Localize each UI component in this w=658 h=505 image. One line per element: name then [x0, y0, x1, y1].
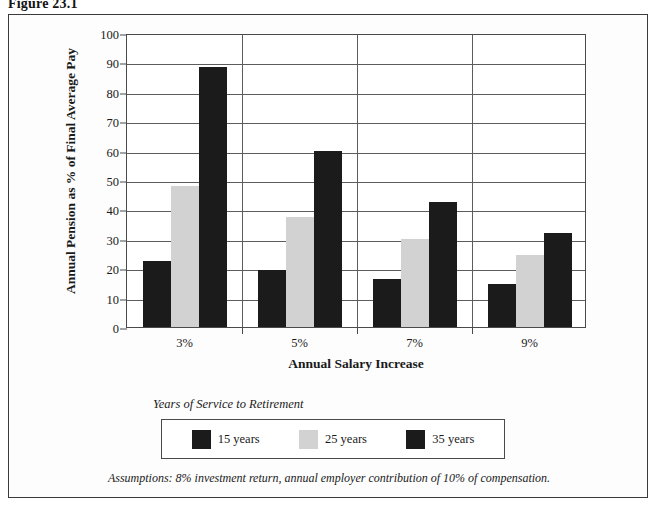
- x-axis-title: Annual Salary Increase: [126, 356, 586, 372]
- y-tick-label: 20: [107, 263, 120, 278]
- category-separator: [472, 35, 473, 327]
- y-tick-label: 50: [107, 175, 120, 190]
- legend-swatch: [406, 430, 425, 449]
- y-tick-mark: [120, 270, 127, 271]
- legend-item[interactable]: 35 years: [406, 430, 474, 449]
- category-separator: [357, 35, 358, 327]
- y-tick-label: 70: [107, 116, 120, 131]
- category-separator: [242, 35, 243, 327]
- legend-heading: Years of Service to Retirement: [153, 397, 303, 412]
- y-tick-mark: [120, 93, 127, 94]
- bar: [373, 279, 401, 328]
- bar: [314, 151, 342, 327]
- y-tick-label: 40: [107, 204, 120, 219]
- y-tick-label: 0: [113, 322, 119, 337]
- x-tick-mark: [242, 327, 243, 334]
- y-tick-label: 10: [107, 292, 120, 307]
- x-tick-label: 7%: [406, 336, 423, 351]
- y-tick-mark: [120, 152, 127, 153]
- y-tick-mark: [120, 182, 127, 183]
- bar: [199, 67, 227, 327]
- y-tick-label: 90: [107, 57, 120, 72]
- y-tick-mark: [120, 329, 127, 330]
- bar: [171, 186, 199, 327]
- bar-group: [143, 35, 227, 327]
- x-tick-mark: [472, 327, 473, 334]
- y-tick-label: 30: [107, 233, 120, 248]
- bar-group: [488, 35, 572, 327]
- bar-group: [258, 35, 342, 327]
- y-tick-mark: [120, 211, 127, 212]
- x-tick-label: 5%: [291, 336, 308, 351]
- y-tick-label: 60: [107, 145, 120, 160]
- legend-item[interactable]: 15 years: [192, 430, 260, 449]
- plot-area: 0102030405060708090100 3%5%7%9%: [126, 34, 586, 328]
- x-tick-label: 3%: [176, 336, 193, 351]
- y-tick-label: 100: [100, 28, 119, 43]
- legend-label: 25 years: [325, 432, 367, 447]
- assumptions-note: Assumptions: 8% investment return, annua…: [9, 471, 649, 486]
- x-tick-mark: [357, 327, 358, 334]
- bar: [286, 217, 314, 327]
- legend-item[interactable]: 25 years: [299, 430, 367, 449]
- y-tick-mark: [120, 123, 127, 124]
- y-tick-mark: [120, 299, 127, 300]
- bar: [516, 255, 544, 327]
- legend: 15 years25 years35 years: [161, 419, 505, 459]
- bar-group: [373, 35, 457, 327]
- bar: [544, 233, 572, 327]
- y-tick-mark: [120, 240, 127, 241]
- bar: [488, 284, 516, 327]
- bar: [401, 239, 429, 327]
- legend-swatch: [299, 430, 318, 449]
- y-tick-label: 80: [107, 86, 120, 101]
- legend-swatch: [192, 430, 211, 449]
- legend-label: 15 years: [218, 432, 260, 447]
- legend-label: 35 years: [432, 432, 474, 447]
- chart-area: Annual Pension as % of Final Average Pay…: [9, 15, 649, 375]
- figure-frame: Annual Pension as % of Final Average Pay…: [8, 14, 648, 498]
- bar: [429, 202, 457, 327]
- bar: [143, 261, 171, 327]
- bar: [258, 270, 286, 327]
- y-tick-mark: [120, 35, 127, 36]
- x-tick-label: 9%: [521, 336, 538, 351]
- y-tick-mark: [120, 64, 127, 65]
- figure-caption: Figure 23.1: [8, 0, 78, 12]
- y-axis-title: Annual Pension as % of Final Average Pay: [63, 21, 79, 321]
